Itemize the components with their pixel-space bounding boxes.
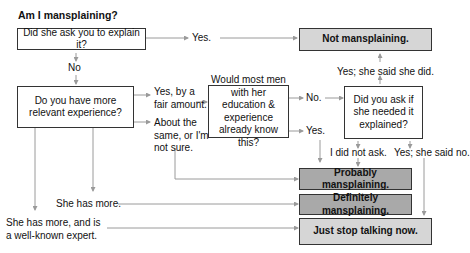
outcome-definitely-mansplaining: Definitely mansplaining. [299, 194, 412, 215]
edge-label-about-same: About the same, or I'm not sure. [154, 117, 212, 155]
outcome-just-stop-talking: Just stop talking now. [299, 218, 432, 245]
edge-label-q3-no: No. [306, 92, 322, 105]
edge-label-yes-fair-amount: Yes, by a fair amount. [154, 86, 208, 111]
edge-label-yes-she-did: Yes; she said she did. [337, 66, 434, 79]
edge-label-well-known-expert: She has more, and is a well-known expert… [6, 217, 106, 242]
edge-label-no: No [68, 62, 81, 75]
edge-label-yes: Yes. [192, 32, 211, 45]
edge-label-did-not-ask: I did not ask. [330, 147, 387, 160]
question-more-experience: Do you have more relevant experience? [17, 86, 134, 128]
outcome-not-mansplaining: Not mansplaining. [299, 28, 432, 51]
edge-label-she-has-more: She has more. [56, 198, 121, 211]
question-did-you-ask: Did you ask if she needed it explained? [344, 86, 423, 139]
question-asked-to-explain: Did she ask you to explain it? [17, 28, 146, 50]
edge-label-q3-yes: Yes. [306, 125, 325, 138]
outcome-probably-mansplaining: Probably mansplaining. [299, 168, 412, 190]
question-most-men-know: Would most men with her education & expe… [208, 85, 289, 138]
edge-label-yes-she-said-no: Yes; she said no. [394, 147, 470, 160]
chart-title: Am I mansplaining? [18, 9, 118, 21]
